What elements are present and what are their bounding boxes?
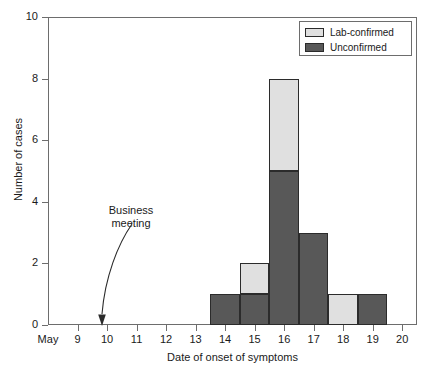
y-axis-tick (42, 79, 48, 80)
x-axis-tick (402, 325, 403, 331)
x-axis-tick (284, 325, 285, 331)
y-axis-tick-label: 0 (8, 319, 38, 330)
x-axis-tick (343, 325, 344, 331)
y-axis-tick (42, 263, 48, 264)
legend-swatch-unconfirmed (305, 43, 324, 52)
y-axis-tick-label: 10 (8, 11, 38, 22)
x-axis-tick (78, 325, 79, 331)
y-axis-tick (42, 17, 48, 18)
bar-segment-lab-confirmed-16 (269, 79, 299, 171)
y-axis-tick (42, 325, 48, 326)
x-axis-tick (225, 325, 226, 331)
x-axis-tick (255, 325, 256, 331)
legend-label-lab-confirmed: Lab-confirmed (330, 28, 394, 38)
y-axis-tick (42, 202, 48, 203)
bar-segment-unconfirmed-16 (269, 171, 299, 325)
legend: Lab-confirmed Unconfirmed (299, 21, 412, 56)
legend-label-unconfirmed: Unconfirmed (330, 43, 387, 53)
legend-swatch-lab-confirmed (305, 28, 324, 37)
annotation-line-1: Business (88, 204, 174, 217)
y-axis-title: Number of cases (13, 80, 24, 240)
bar-segment-unconfirmed-15 (240, 294, 270, 325)
annotation-arrow-icon (80, 222, 150, 330)
x-axis-tick (314, 325, 315, 331)
bar-segment-lab-confirmed-15 (240, 263, 270, 294)
x-axis-tick (166, 325, 167, 331)
y-axis-tick-label: 2 (8, 257, 38, 268)
legend-item-unconfirmed: Unconfirmed (305, 41, 406, 54)
x-axis-tick-label: 20 (382, 334, 422, 345)
bar-segment-unconfirmed-14 (210, 294, 240, 325)
bar-segment-unconfirmed-19 (358, 294, 388, 325)
x-axis-title: Date of onset of symptoms (48, 352, 417, 363)
epidemic-curve-chart: 0246810 May91011121314151617181920 Numbe… (0, 0, 426, 373)
x-axis-tick (196, 325, 197, 331)
y-axis-tick (42, 140, 48, 141)
bar-segment-unconfirmed-17 (299, 233, 329, 325)
bar-segment-lab-confirmed-18 (328, 294, 358, 325)
x-axis-tick (373, 325, 374, 331)
legend-item-lab-confirmed: Lab-confirmed (305, 26, 406, 39)
